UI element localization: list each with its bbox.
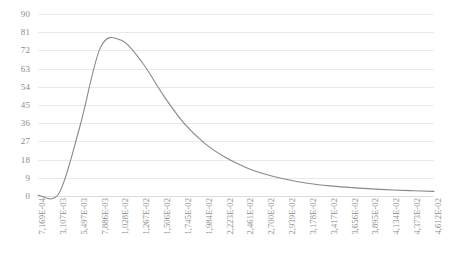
- y-tick-label-45: 45: [21, 101, 30, 110]
- y-tick-label-9: 9: [25, 173, 30, 182]
- x-tick-label-17: 4,134E-02: [392, 198, 401, 235]
- x-tick-label-10: 2,461E-02: [246, 198, 255, 235]
- y-tick-label-27: 27: [21, 137, 30, 146]
- x-tick-label-1: 3,107E-03: [59, 198, 68, 235]
- x-tick-label-4: 1,028E-02: [121, 198, 130, 235]
- y-axis: 09182736455463728190: [0, 0, 34, 210]
- x-tick-label-9: 2,223E-02: [226, 198, 235, 235]
- plot-area: [38, 14, 434, 196]
- x-tick-label-18: 4,373E-02: [413, 198, 422, 235]
- y-tick-label-36: 36: [21, 119, 30, 128]
- x-tick-label-3: 7,886E-03: [101, 198, 110, 235]
- x-tick-label-14: 3,417E-02: [330, 198, 339, 235]
- y-tick-label-18: 18: [21, 155, 30, 164]
- x-axis: 7,169E-043,107E-035,497E-037,886E-031,02…: [38, 198, 438, 262]
- y-tick-label-63: 63: [21, 64, 30, 73]
- y-tick-label-54: 54: [21, 82, 30, 91]
- y-tick-label-72: 72: [21, 46, 30, 55]
- x-tick-label-0: 7,169E-04: [38, 198, 47, 235]
- y-tick-label-81: 81: [21, 28, 30, 37]
- x-tick-label-7: 1,745E-02: [184, 198, 193, 235]
- x-tick-label-19: 4,612E-02: [434, 198, 443, 235]
- gridline-0: [38, 196, 434, 197]
- x-tick-label-16: 3,895E-02: [371, 198, 380, 235]
- chart-container: 09182736455463728190 7,169E-043,107E-035…: [0, 0, 451, 262]
- x-tick-label-6: 1,506E-02: [163, 198, 172, 235]
- x-tick-label-11: 2,700E-02: [267, 198, 276, 235]
- x-tick-label-12: 2,939E-02: [288, 198, 297, 235]
- x-tick-label-13: 3,178E-02: [309, 198, 318, 235]
- y-tick-label-0: 0: [25, 192, 30, 201]
- x-tick-label-15: 3,656E-02: [351, 198, 360, 235]
- line-series-curve: [38, 14, 434, 196]
- x-tick-label-8: 1,984E-02: [205, 198, 214, 235]
- y-tick-label-90: 90: [21, 10, 30, 19]
- x-tick-label-5: 1,267E-02: [142, 198, 151, 235]
- x-tick-label-2: 5,497E-03: [80, 198, 89, 235]
